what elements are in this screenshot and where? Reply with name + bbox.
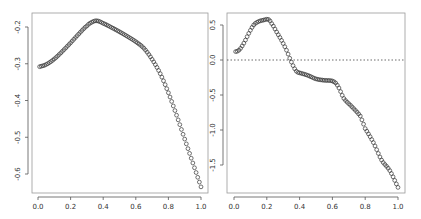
right-plot-panel: 0.00.20.40.60.81.00.50.0-0.5-1.0-1.5: [209, 13, 405, 211]
x-tick-label: 0.4: [98, 203, 110, 211]
data-series: [38, 19, 203, 189]
y-tick-label: -0.3: [14, 57, 22, 71]
data-point: [189, 156, 193, 160]
x-tick-label: 0.8: [360, 203, 371, 211]
plot-frame: [32, 13, 208, 193]
data-series: [234, 17, 400, 189]
y-axis: 0.50.0-0.5-1.0-1.5: [209, 19, 223, 171]
data-point: [193, 166, 197, 170]
y-tick-label: -0.2: [14, 20, 22, 34]
data-point: [396, 186, 400, 190]
x-tick-label: 0.0: [32, 203, 43, 211]
x-axis: 0.00.20.40.60.81.0: [228, 197, 403, 211]
data-point: [339, 90, 343, 94]
x-tick-label: 0.8: [163, 203, 174, 211]
plot-frame: [227, 13, 405, 193]
data-point: [181, 132, 185, 136]
x-tick-label: 0.6: [327, 203, 339, 211]
y-tick-label: -1.0: [209, 123, 217, 137]
y-tick-label: -1.5: [209, 158, 217, 172]
data-point: [199, 185, 203, 189]
x-tick-label: 0.4: [294, 203, 306, 211]
y-tick-label: 0.0: [209, 54, 217, 65]
data-point: [194, 171, 198, 175]
data-point: [160, 75, 164, 79]
data-point: [393, 178, 397, 182]
y-tick-label: -0.5: [209, 88, 217, 102]
data-point: [175, 113, 179, 117]
y-tick-label: -0.5: [14, 130, 22, 144]
chart-canvas: 0.00.20.40.60.81.0-0.2-0.3-0.4-0.5-0.6 0…: [0, 0, 421, 219]
data-point: [171, 104, 175, 108]
data-point: [168, 95, 172, 99]
y-tick-label: 0.5: [209, 19, 217, 30]
y-axis: -0.2-0.3-0.4-0.5-0.6: [14, 20, 28, 181]
data-point: [285, 48, 289, 52]
data-point: [170, 100, 174, 104]
x-tick-label: 0.2: [261, 203, 272, 211]
data-point: [186, 147, 190, 151]
data-point: [188, 152, 192, 156]
data-point: [184, 142, 188, 146]
x-axis: 0.00.20.40.60.81.0: [32, 197, 206, 211]
data-point: [167, 91, 171, 95]
data-point: [165, 87, 169, 91]
x-tick-label: 0.2: [65, 203, 76, 211]
data-point: [176, 118, 180, 122]
data-point: [183, 137, 187, 141]
left-plot-panel: 0.00.20.40.60.81.0-0.2-0.3-0.4-0.5-0.6: [14, 13, 208, 211]
x-tick-label: 1.0: [195, 203, 206, 211]
x-tick-label: 0.0: [228, 203, 239, 211]
y-tick-label: -0.4: [14, 93, 22, 107]
data-point: [362, 122, 366, 126]
data-point: [173, 109, 177, 113]
data-point: [180, 128, 184, 132]
x-tick-label: 1.0: [392, 203, 403, 211]
data-point: [163, 83, 167, 87]
data-point: [373, 144, 377, 148]
data-point: [288, 56, 292, 60]
data-point: [162, 79, 166, 83]
data-point: [375, 148, 379, 152]
data-point: [197, 180, 201, 184]
data-point: [196, 175, 200, 179]
x-tick-label: 0.6: [130, 203, 142, 211]
y-tick-label: -0.6: [14, 167, 22, 181]
data-point: [191, 161, 195, 165]
data-point: [178, 123, 182, 127]
data-point: [360, 118, 364, 122]
data-point: [286, 52, 290, 56]
